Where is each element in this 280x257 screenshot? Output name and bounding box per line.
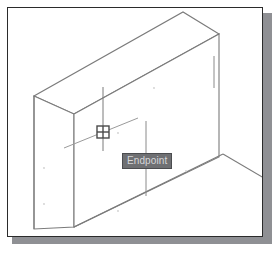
wall-left-face: [34, 96, 74, 229]
faint-mark-4: [185, 170, 187, 172]
endpoint-tooltip: Endpoint: [122, 153, 172, 169]
faint-mark-3: [43, 167, 45, 169]
faint-mark-1: [117, 132, 119, 134]
faint-mark-2: [153, 87, 155, 89]
endpoint-snap-marker: [97, 126, 109, 138]
floor-right-edge: [223, 154, 263, 178]
wall-left-face-polygon: [34, 96, 74, 229]
cad-canvas[interactable]: [8, 8, 263, 237]
faint-mark-5: [117, 210, 119, 212]
cad-drawing-panel[interactable]: Endpoint: [7, 7, 263, 237]
screenshot-root: Endpoint: [0, 0, 280, 257]
faint-mark-6: [43, 203, 45, 205]
